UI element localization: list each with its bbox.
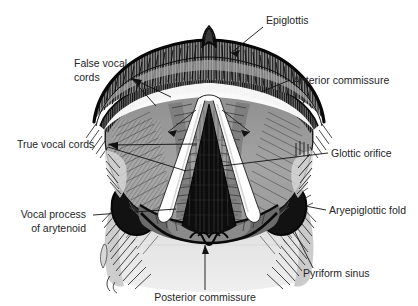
label-pyriform-sinus: Pyriform sinus — [303, 267, 370, 279]
label-anterior-commissure: Anterior commissure — [293, 74, 389, 86]
label-epiglottis: Epiglottis — [266, 14, 309, 26]
label-aryepiglottic-fold: Aryepiglottic fold — [329, 204, 406, 216]
label-vocal-process-line2: of arytenoid — [31, 222, 86, 234]
label-vocal-process-line1: Vocal process — [21, 208, 86, 220]
label-posterior-commissure: Posterior commissure — [154, 291, 256, 303]
label-false-vocal-cords-line1: False vocal — [74, 57, 127, 69]
larynx-illustration: Epiglottis False vocal cords Anterior co… — [0, 0, 418, 306]
label-false-vocal-cords-line2: cords — [74, 71, 100, 83]
anatomy-figure: Epiglottis False vocal cords Anterior co… — [0, 0, 418, 306]
label-glottic-orifice: Glottic orifice — [331, 147, 392, 159]
label-true-vocal-cords: True vocal cords — [17, 138, 94, 150]
